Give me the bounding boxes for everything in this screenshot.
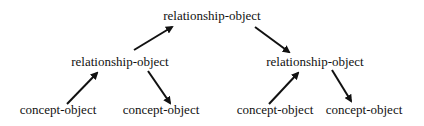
tree-diagram: relationship-object relationship-object … <box>0 0 424 126</box>
arrow-right-to-right-b <box>332 70 351 101</box>
arrow-right-a-to-right <box>269 73 298 104</box>
node-right-b-concept-object: concept-object <box>326 103 403 117</box>
node-right-a-concept-object: concept-object <box>237 103 314 117</box>
arrow-root-to-right <box>255 27 289 52</box>
node-right-relationship-object: relationship-object <box>266 55 363 69</box>
node-left-relationship-object: relationship-object <box>71 55 168 69</box>
arrow-left-to-root <box>134 27 172 50</box>
node-root-relationship-object: relationship-object <box>163 9 260 23</box>
arrow-left-to-left-b <box>148 71 170 103</box>
node-left-b-concept-object: concept-object <box>123 103 200 117</box>
node-left-a-concept-object: concept-object <box>20 103 97 117</box>
arrow-left-a-to-left <box>67 73 97 104</box>
